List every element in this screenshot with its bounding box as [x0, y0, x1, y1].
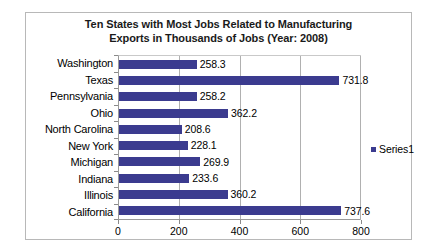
- bar[interactable]: [119, 92, 197, 101]
- bar[interactable]: [119, 76, 339, 85]
- bar-row: 258.3: [119, 56, 360, 72]
- category-label: Illinois: [26, 187, 118, 204]
- legend: Series1: [371, 143, 414, 155]
- bar[interactable]: [119, 109, 228, 118]
- legend-label: Series1: [379, 143, 414, 155]
- bar-row: 737.6: [119, 203, 360, 219]
- chart-title-line-2: Exports in Thousands of Jobs (Year: 2008…: [26, 32, 411, 46]
- bar[interactable]: [119, 125, 182, 134]
- axis-tick-label: 200: [170, 225, 188, 237]
- bar-row: 228.1: [119, 137, 360, 153]
- bar-value-label: 360.2: [231, 189, 257, 200]
- axis-tick: [361, 220, 362, 224]
- bar-row: 360.2: [119, 186, 360, 202]
- bar-value-label: 208.6: [185, 124, 211, 135]
- axis-tick: [300, 220, 301, 224]
- legend-marker-icon: [371, 147, 376, 152]
- axis-tick-label: 600: [291, 225, 309, 237]
- category-label: Pennsylvania: [26, 88, 118, 105]
- axis-tick-label: 800: [352, 225, 370, 237]
- category-label: Indiana: [26, 171, 118, 188]
- bar[interactable]: [119, 190, 228, 199]
- category-label: North Carolina: [26, 121, 118, 138]
- bar-series: 258.3731.8258.2362.2208.6228.1269.9233.6…: [119, 56, 360, 219]
- bar-value-label: 233.6: [192, 173, 218, 184]
- category-label: Ohio: [26, 105, 118, 122]
- axis-tick: [240, 220, 241, 224]
- bar-row: 258.2: [119, 89, 360, 105]
- category-label: Washington: [26, 55, 118, 72]
- bar[interactable]: [119, 206, 341, 215]
- category-label: Texas: [26, 72, 118, 89]
- bar-row: 731.8: [119, 72, 360, 88]
- plot-area: 258.3731.8258.2362.2208.6228.1269.9233.6…: [118, 55, 361, 220]
- chart-title: Ten States with Most Jobs Related to Man…: [26, 18, 411, 45]
- value-axis: 0200400600800: [118, 220, 361, 241]
- chart-title-line-1: Ten States with Most Jobs Related to Man…: [26, 18, 411, 32]
- category-label: California: [26, 204, 118, 221]
- axis-tick: [179, 220, 180, 224]
- axis-tick-label: 400: [231, 225, 249, 237]
- bar-value-label: 269.9: [203, 157, 229, 168]
- axis-tick-label: 0: [115, 225, 121, 237]
- bar[interactable]: [119, 157, 200, 166]
- bar-value-label: 228.1: [191, 140, 217, 151]
- bar-value-label: 362.2: [231, 108, 257, 119]
- bar-row: 269.9: [119, 154, 360, 170]
- bar[interactable]: [119, 141, 188, 150]
- bar[interactable]: [119, 60, 197, 69]
- bar-value-label: 737.6: [344, 206, 370, 217]
- chart-frame: Ten States with Most Jobs Related to Man…: [25, 12, 412, 240]
- category-axis: Washington Texas Pennsylvania Ohio North…: [26, 55, 118, 220]
- category-label: New York: [26, 138, 118, 155]
- category-label: Michigan: [26, 154, 118, 171]
- axis-tick: [118, 220, 119, 224]
- bar[interactable]: [119, 174, 189, 183]
- bar-value-label: 258.3: [200, 59, 226, 70]
- bar-row: 362.2: [119, 105, 360, 121]
- bar-row: 208.6: [119, 121, 360, 137]
- bar-value-label: 258.2: [200, 91, 226, 102]
- bar-value-label: 731.8: [342, 75, 368, 86]
- plot-wrapper: Washington Texas Pennsylvania Ohio North…: [26, 55, 411, 241]
- bar-row: 233.6: [119, 170, 360, 186]
